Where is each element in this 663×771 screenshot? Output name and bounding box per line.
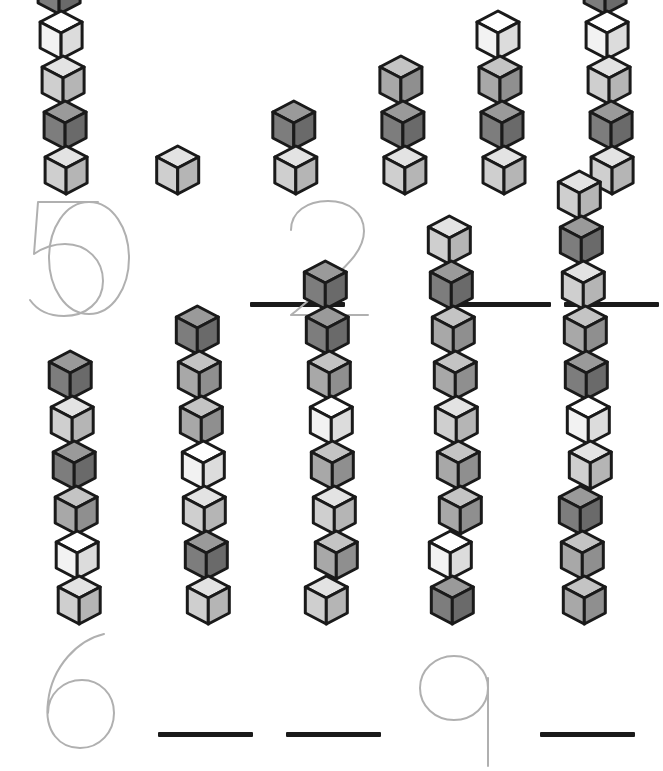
- cube-tower[interactable]: [382, 65, 428, 200]
- tower-area: [522, 330, 653, 630]
- worksheet-row-bottom: [0, 330, 658, 747]
- tower-area: [140, 330, 271, 630]
- answer-slot-col-7[interactable]: [12, 626, 143, 751]
- numeral-outline-path: [47, 634, 114, 748]
- cube-tower[interactable]: [561, 180, 614, 630]
- trace-numeral-6[interactable]: [12, 626, 143, 751]
- numeral-outline-path: [420, 656, 488, 766]
- cube-tower[interactable]: [480, 20, 528, 200]
- tower-area: [268, 330, 399, 630]
- cube-light: [42, 144, 90, 200]
- tower-column-col-11: [522, 330, 653, 747]
- cube-light: [184, 574, 232, 630]
- answer-slot-col-6[interactable]: [0, 196, 131, 321]
- tower-area: [12, 330, 143, 630]
- cube-tower[interactable]: [307, 270, 360, 630]
- write-line[interactable]: [540, 732, 635, 737]
- write-line[interactable]: [158, 732, 253, 737]
- cube-light: [480, 144, 528, 200]
- tower-column-col-10: [392, 330, 523, 747]
- cube-dark: [428, 574, 476, 630]
- tower-area: [392, 330, 523, 630]
- cube-light: [55, 574, 103, 630]
- answer-slot-col-8[interactable]: [140, 626, 271, 751]
- cube-light: [154, 144, 202, 200]
- cube-medium: [560, 574, 608, 630]
- cube-tower[interactable]: [159, 155, 202, 200]
- cube-light: [302, 574, 350, 630]
- answer-slot-col-11[interactable]: [522, 626, 653, 751]
- tower-column-col-9: [268, 330, 399, 747]
- cube-tower[interactable]: [52, 360, 104, 630]
- cube-tower[interactable]: [41, 0, 91, 200]
- answer-slot-col-9[interactable]: [268, 626, 399, 751]
- answer-slot-col-10[interactable]: [392, 626, 523, 751]
- cube-tower[interactable]: [179, 315, 232, 630]
- trace-numeral-9[interactable]: [392, 626, 523, 751]
- cube-light: [272, 144, 320, 200]
- cube-tower[interactable]: [275, 110, 319, 200]
- tower-area: [0, 0, 131, 200]
- tower-column-col-8: [140, 330, 271, 747]
- trace-numeral-5[interactable]: [0, 196, 131, 321]
- write-line[interactable]: [286, 732, 381, 737]
- tower-area: [115, 0, 246, 200]
- cube-tower[interactable]: [431, 225, 484, 630]
- numeral-outline-path: [30, 202, 103, 316]
- tower-column-col-1: [115, 0, 246, 340]
- tower-column-col-7: [12, 330, 143, 747]
- cube-light: [381, 144, 429, 200]
- tower-column-col-6: [0, 0, 131, 340]
